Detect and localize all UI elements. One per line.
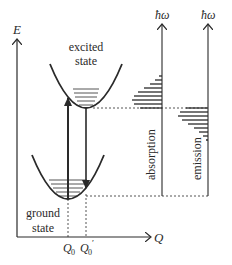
excited-state-curve [50,64,122,108]
svg-text:0: 0 [88,248,92,257]
dashed-guides [68,108,208,237]
absorption-bars [132,76,162,108]
ground-state-label-line1: ground [26,206,60,220]
svg-text:′: ′ [92,238,94,248]
excited-state-label-line2: state [75,54,97,68]
configuration-coordinate-diagram: E Q excited state ground [0,0,232,265]
excited-state-label-line1: excited [69,40,104,54]
energy-axis-label: E [12,22,21,37]
q0-label: Q 0 [63,241,75,257]
emission-bars [178,108,208,140]
absorption-spectrum: ħω absorption [132,8,169,196]
ground-state-label-line2: state [32,221,54,235]
diagram-canvas: E Q excited state ground [0,0,232,265]
absorption-label: absorption [144,129,158,180]
emission-label: emission [190,137,204,180]
q0-prime-label: Q 0 ′ [80,238,94,257]
energy-axis: E [12,22,21,237]
svg-text:0: 0 [71,248,75,257]
coordinate-axis-label: Q [154,230,164,245]
emission-spectrum: ħω emission [178,8,215,196]
absorption-axis-label: ħω [155,8,169,22]
emission-axis-label: ħω [201,8,215,22]
